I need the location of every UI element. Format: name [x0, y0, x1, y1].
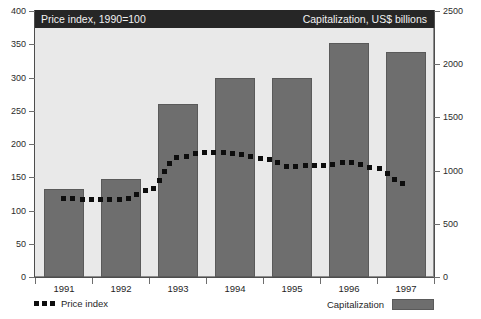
left-tick: [29, 177, 35, 178]
line-dot: [193, 151, 198, 156]
line-dot: [61, 196, 66, 201]
right-axis-title: Capitalization, US$ billions: [303, 14, 427, 25]
line-dot: [293, 164, 298, 169]
line-dot: [349, 160, 354, 165]
x-axis-label: 1992: [96, 284, 146, 294]
line-dot: [80, 197, 85, 202]
right-axis-line: [434, 10, 435, 278]
right-tick: [434, 11, 440, 12]
left-tick-label: 300: [2, 74, 26, 83]
line-dot: [303, 163, 308, 168]
line-dot: [385, 171, 390, 176]
left-tick-label: 150: [2, 173, 26, 182]
chart-header-band: Price index, 1990=100 Capitalization, US…: [34, 10, 434, 28]
x-axis-label: 1994: [210, 284, 260, 294]
dotted-line-swatch-icon: [34, 301, 55, 306]
bar: [158, 104, 198, 277]
line-dot: [330, 162, 335, 167]
bar: [386, 52, 426, 277]
line-dot: [157, 178, 162, 183]
line-dot: [184, 154, 189, 159]
left-axis-title: Price index, 1990=100: [41, 14, 146, 25]
x-axis-label: 1996: [324, 284, 374, 294]
line-dot: [117, 197, 122, 202]
right-tick: [434, 224, 440, 225]
line-dot: [377, 166, 382, 171]
line-dot: [126, 196, 131, 201]
line-dot: [162, 169, 167, 174]
line-dot: [340, 160, 345, 165]
line-dot: [275, 160, 280, 165]
line-dot: [151, 186, 156, 191]
line-dot: [211, 150, 216, 155]
right-tick: [434, 117, 440, 118]
right-tick-label: 0: [443, 273, 473, 282]
left-tick: [29, 211, 35, 212]
left-tick-label: 50: [2, 240, 26, 249]
left-tick-label: 400: [2, 7, 26, 16]
left-tick: [29, 244, 35, 245]
x-axis-label: 1995: [267, 284, 317, 294]
line-dot: [174, 155, 179, 160]
left-tick: [29, 44, 35, 45]
line-dot: [230, 151, 235, 156]
x-tick: [263, 278, 264, 284]
line-dot: [70, 196, 75, 201]
right-tick: [434, 64, 440, 65]
x-axis-label: 1993: [153, 284, 203, 294]
x-tick: [35, 278, 36, 284]
line-dot: [221, 150, 226, 155]
line-dot: [400, 181, 405, 186]
bar: [215, 78, 255, 277]
right-tick-label: 1500: [443, 113, 473, 122]
line-dot: [284, 164, 289, 169]
bottom-axis-line: [34, 277, 435, 278]
left-tick-label: 200: [2, 140, 26, 149]
left-tick-label: 100: [2, 207, 26, 216]
line-dot: [321, 163, 326, 168]
line-dot: [202, 150, 207, 155]
x-tick: [206, 278, 207, 284]
x-axis-label: 1997: [381, 284, 431, 294]
left-tick: [29, 78, 35, 79]
legend-label-capitalization: Capitalization: [327, 300, 384, 310]
line-dot: [239, 152, 244, 157]
line-dot: [267, 157, 272, 162]
x-tick: [434, 278, 435, 284]
legend-item-price-index: Price index: [34, 299, 108, 309]
x-tick: [149, 278, 150, 284]
legend-item-capitalization: Capitalization: [327, 299, 434, 310]
line-dot: [98, 197, 103, 202]
left-tick-label: 250: [2, 107, 26, 116]
left-tick: [29, 11, 35, 12]
right-tick-label: 500: [443, 220, 473, 229]
bar: [44, 189, 84, 277]
x-tick: [92, 278, 93, 284]
line-dot: [248, 154, 253, 159]
line-dot: [258, 156, 263, 161]
right-tick-label: 2000: [443, 60, 473, 69]
left-tick: [29, 111, 35, 112]
legend-label-price-index: Price index: [61, 299, 108, 309]
chart-screenshot: Price index, 1990=100 Capitalization, US…: [0, 0, 481, 319]
line-dot: [367, 165, 372, 170]
right-tick-label: 1000: [443, 167, 473, 176]
line-dot: [167, 161, 172, 166]
chart-legend: Price index Capitalization: [34, 299, 434, 313]
line-dot: [143, 188, 148, 193]
line-dot: [107, 197, 112, 202]
bar: [272, 78, 312, 277]
line-dot: [134, 192, 139, 197]
left-tick-label: 0: [2, 273, 26, 282]
x-tick: [320, 278, 321, 284]
bar-swatch-icon: [392, 299, 434, 310]
x-axis-label: 1991: [39, 284, 89, 294]
line-dot: [89, 197, 94, 202]
right-tick-label: 2500: [443, 7, 473, 16]
right-tick: [434, 171, 440, 172]
left-tick-label: 350: [2, 40, 26, 49]
left-tick: [29, 144, 35, 145]
line-dot: [358, 162, 363, 167]
line-dot: [392, 177, 397, 182]
x-tick: [377, 278, 378, 284]
